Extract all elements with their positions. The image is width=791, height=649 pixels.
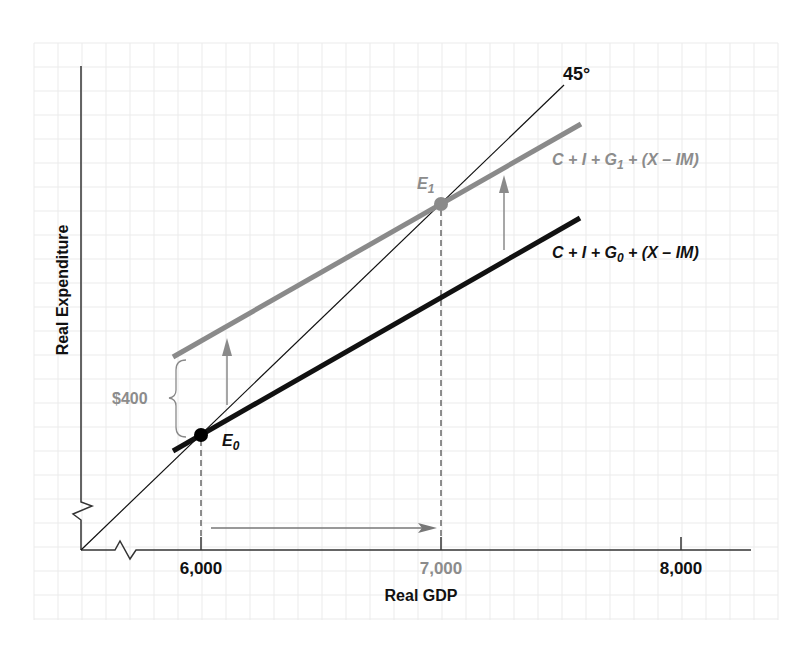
e0-label: E0 [222, 432, 240, 453]
arrows [211, 175, 509, 533]
brace-label: $400 [112, 390, 148, 407]
equilibrium-point-e1 [434, 197, 448, 211]
ae-g1-label: C + I + G1 + (X – IM) [552, 151, 699, 172]
tick-label-8000: 8,000 [660, 559, 703, 578]
x-axis [81, 541, 751, 559]
up-arrow-right-icon [499, 175, 509, 193]
e1-label: E1 [417, 175, 435, 196]
ae-line-g1 [173, 124, 581, 357]
ae-g0-label: C + I + G0 + (X – IM) [552, 244, 699, 265]
background-grid [34, 43, 778, 620]
ae-line-g0 [173, 218, 580, 451]
tick-label-6000: 6,000 [180, 559, 223, 578]
angle-label: 45° [563, 64, 590, 84]
equilibrium-point-e0 [194, 428, 208, 442]
up-arrow-left-icon [222, 338, 232, 356]
expenditure-diagram: Real Expenditure Real GDP 6,000 7,000 8,… [0, 0, 791, 649]
y-axis-label: Real Expenditure [54, 225, 71, 356]
x-axis-label: Real GDP [385, 587, 458, 604]
tick-label-7000: 7,000 [420, 559, 463, 578]
